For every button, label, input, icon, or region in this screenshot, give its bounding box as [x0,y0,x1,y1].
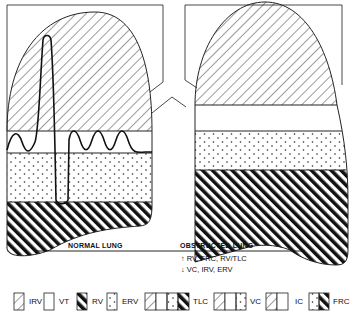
legend-label-vc: VC [250,297,261,306]
legend-label-ic: IC [295,297,303,306]
increased-list: RV, FRC, RV/TLC [187,254,247,263]
legend-label-rv: RV [92,297,103,306]
legend-swatch-vc [214,293,246,310]
right-irv-band [185,0,355,105]
legend-label-erv: ERV [122,297,138,306]
left-rv-band [0,202,160,272]
legend-label-irv: IRV [29,297,42,306]
left-erv-band [0,153,160,202]
normal-lung-title: NORMAL LUNG [68,242,123,249]
legend-swatch-ic [266,293,288,310]
decreased-row: ↓ VC, IRV, ERV [181,265,233,274]
obstructed-lung-title: OBSTRUCTED LUNG [180,242,253,249]
legend-label-vt: VT [59,297,69,306]
legend-swatch-vt [44,293,54,310]
legend-label-frc: FRC [333,297,349,306]
legend-swatch-irv [14,293,24,310]
right-vt-band [185,105,355,131]
legend-label-tlc: TLC [193,297,208,306]
right-erv-band [185,131,355,170]
arrow-up-icon: ↑ [181,254,185,263]
normal-lung [0,0,160,272]
legend-swatch-erv [107,293,117,310]
decreased-list: VC, IRV, ERV [187,265,233,274]
legend-swatch-rv [77,293,87,310]
left-irv-band [0,0,160,131]
legend-swatch-tlc [145,293,189,310]
legend-swatch-frc [309,293,329,310]
increased-row: ↑ RV, FRC, RV/TLC [181,254,247,263]
arrow-down-icon: ↓ [181,265,185,274]
